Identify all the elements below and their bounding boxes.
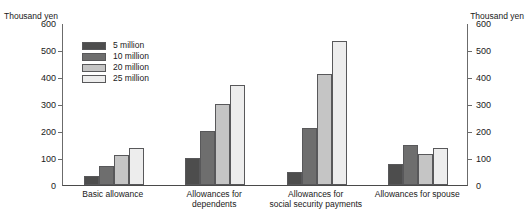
y-tick-label-right: 400 [476, 74, 510, 83]
y-tick-label-right: 600 [476, 20, 510, 29]
y-tick-label-right: 300 [476, 101, 510, 110]
bar [129, 148, 144, 185]
bar [388, 164, 403, 185]
y-tick-label-left: 200 [22, 128, 56, 137]
y-tick-mark-right [468, 159, 472, 160]
bar [215, 104, 230, 185]
y-tick-label-left: 0 [22, 182, 56, 191]
x-category-label: Allowances for social security payments [265, 190, 367, 209]
legend-item-label: 25 million [113, 74, 149, 83]
y-tick-label-right: 100 [476, 155, 510, 164]
y-tick-label-left: 100 [22, 155, 56, 164]
legend-item: 25 million [82, 73, 149, 84]
legend-swatch-icon [82, 64, 106, 72]
y-tick-label-right: 200 [476, 128, 510, 137]
legend-item-label: 20 million [113, 63, 149, 72]
y-tick-mark-right [468, 105, 472, 106]
bar [317, 74, 332, 185]
y-tick-label-right: 500 [476, 47, 510, 56]
bar [418, 154, 433, 185]
y-tick-mark-right [468, 51, 472, 52]
bar [403, 145, 418, 186]
y-tick-label-right: 0 [476, 182, 510, 191]
legend-item-label: 10 million [113, 52, 149, 61]
y-tick-mark-left [58, 105, 62, 106]
legend-item: 5 million [82, 40, 149, 51]
y-tick-mark-left [58, 78, 62, 79]
bar [433, 148, 448, 185]
y-tick-label-left: 400 [22, 74, 56, 83]
y-tick-label-left: 500 [22, 47, 56, 56]
bar [99, 166, 114, 185]
legend-item: 10 million [82, 51, 149, 62]
legend-item: 20 million [82, 62, 149, 73]
y-tick-mark-right [468, 132, 472, 133]
y-tick-mark-left [58, 159, 62, 160]
legend-swatch-icon [82, 53, 106, 61]
bar [185, 158, 200, 185]
y-tick-mark-left [58, 51, 62, 52]
legend-swatch-icon [82, 75, 106, 83]
bar [84, 176, 99, 185]
bar-chart: Thousand yen Thousand yen 60050040030020… [0, 0, 528, 219]
x-category-label: Allowances for dependents [164, 190, 266, 209]
bar [200, 131, 215, 185]
y-tick-label-left: 300 [22, 101, 56, 110]
bar [230, 85, 245, 185]
y-tick-mark-right [468, 78, 472, 79]
bar [302, 128, 317, 186]
y-tick-mark-left [58, 132, 62, 133]
x-category-label: Basic allowance [62, 190, 164, 200]
bar [287, 172, 302, 186]
chart-legend: 5 million10 million20 million25 million [82, 40, 149, 84]
y-tick-label-left: 600 [22, 20, 56, 29]
bar [332, 41, 347, 185]
bar [114, 155, 129, 185]
legend-swatch-icon [82, 42, 106, 50]
x-category-label: Allowances for spouse [367, 190, 469, 200]
legend-item-label: 5 million [113, 41, 144, 50]
